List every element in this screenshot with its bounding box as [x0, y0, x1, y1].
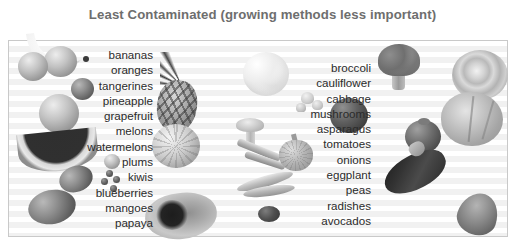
list-item: kiwis [0, 169, 153, 184]
list-item: bananas [0, 47, 153, 62]
list-item: onions [220, 152, 371, 167]
list-item: peas [220, 182, 371, 197]
list-item: pineapple [0, 93, 153, 108]
list-item: watermelons [0, 139, 153, 154]
list-item: blueberries [0, 185, 153, 200]
page-title: Least Contaminated (growing methods less… [0, 7, 525, 22]
infographic-panel: Least Contaminated (growing methods less… [0, 0, 525, 247]
list-item: melons [0, 123, 153, 138]
list-item: oranges [0, 62, 153, 77]
list-item: radishes [220, 198, 371, 213]
list-item: broccoli [220, 60, 371, 75]
list-item: asparagus [220, 121, 371, 136]
list-item: plums [0, 154, 153, 169]
list-item: papaya [0, 215, 153, 230]
list-item: cabbage [220, 91, 371, 106]
list-item: tangerines [0, 78, 153, 93]
produce-list-left: bananas oranges tangerines pineapple gra… [0, 47, 153, 231]
list-item: mangoes [0, 200, 153, 215]
list-item: avocados [220, 213, 371, 228]
list-item: eggplant [220, 167, 371, 182]
list-item: cauliflower [220, 75, 371, 90]
list-item: mushrooms [220, 106, 371, 121]
list-item: tomatoes [220, 136, 371, 151]
produce-list-right: broccoli cauliflower cabbage mushrooms a… [220, 60, 371, 228]
list-item: grapefruit [0, 108, 153, 123]
